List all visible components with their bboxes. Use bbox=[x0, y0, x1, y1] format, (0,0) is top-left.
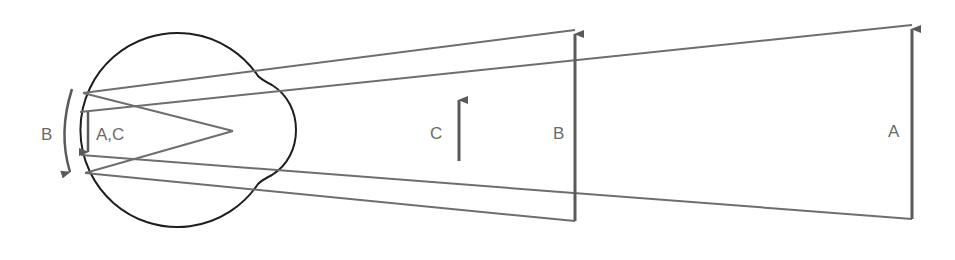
object-a-label: A bbox=[888, 122, 900, 141]
object-b-label: B bbox=[553, 124, 564, 143]
retina-label-b: B bbox=[41, 125, 52, 144]
object-c-label: C bbox=[430, 124, 442, 143]
retina-label-a-c: A,C bbox=[96, 125, 124, 144]
rays-object-a-c bbox=[80, 25, 912, 219]
rays-object-b bbox=[83, 30, 575, 221]
visual-angle-diagram: B A,C C B A bbox=[0, 0, 955, 260]
retinal-image-b-arrow bbox=[64, 89, 72, 172]
